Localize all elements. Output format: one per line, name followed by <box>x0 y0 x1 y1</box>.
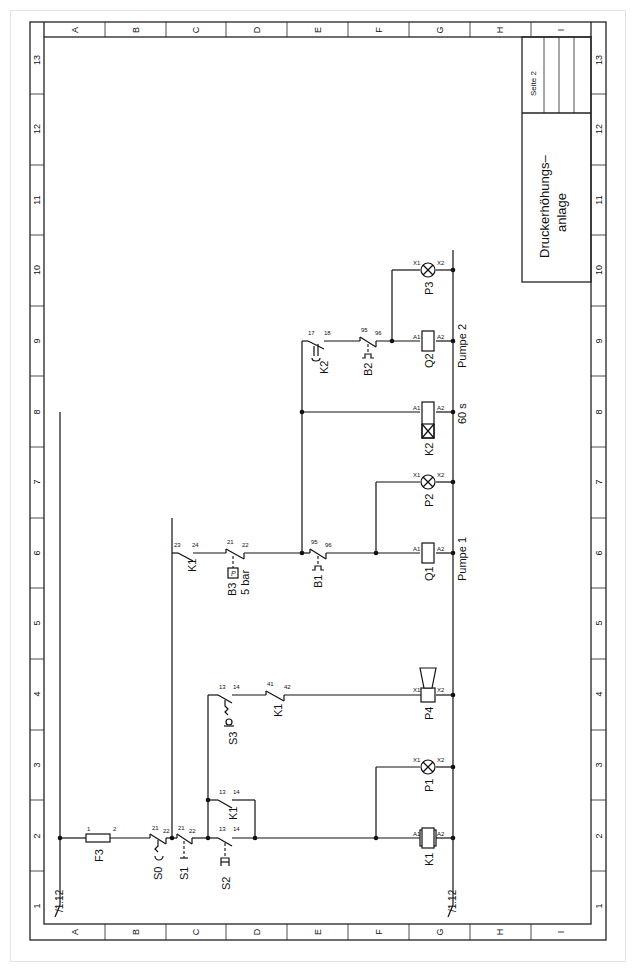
svg-text:23: 23 <box>174 542 181 548</box>
caption-60s: 60 s <box>456 403 468 424</box>
contact-k2-timer: 17 18 K2 <box>308 330 331 374</box>
switch-s1: 21 22 S1 <box>177 825 196 880</box>
svg-text:22: 22 <box>242 542 249 548</box>
col-label-7-left: 7 <box>32 479 42 484</box>
switch-s0-stop: 21 22 S0 <box>150 825 170 880</box>
col-label-4-right: 4 <box>594 691 604 696</box>
rail-ref-right: /1.12 <box>447 889 458 912</box>
label-k2-coil: K2 <box>423 443 435 456</box>
col-label-6-left: 6 <box>32 550 42 555</box>
svg-text:17: 17 <box>308 330 315 336</box>
drawing-title-line2: anlage <box>554 193 569 232</box>
pressure-sensor-glyph: P <box>231 570 236 577</box>
row-label-a-top: A <box>70 27 80 33</box>
label-k2-timer: K2 <box>318 361 330 374</box>
svg-text:24: 24 <box>192 542 199 548</box>
col-label-8-right: 8 <box>594 409 604 414</box>
svg-text:X1: X1 <box>413 260 421 266</box>
row-label-d-top: D <box>252 26 262 33</box>
horn-p4: X1 X2 P4 <box>413 668 445 720</box>
label-b3-setting: 5 bar <box>239 570 251 595</box>
label-p2: P2 <box>423 494 435 507</box>
row-label-i-top: I <box>556 29 566 32</box>
svg-text:A1: A1 <box>413 405 421 411</box>
col-label-13-left: 13 <box>32 55 42 65</box>
svg-text:A2: A2 <box>437 831 445 837</box>
svg-text:95: 95 <box>311 539 318 545</box>
row-label-f-top: F <box>374 27 384 33</box>
col-label-1-right: 1 <box>594 903 604 908</box>
junction-dots <box>58 268 456 841</box>
caption-pumpe-2: Pumpe 2 <box>456 324 468 368</box>
row-label-e-top: E <box>313 27 323 33</box>
label-k1-no: K1 <box>186 559 198 572</box>
svg-text:A2: A2 <box>437 546 445 552</box>
col-label-1-left: 1 <box>32 903 42 908</box>
contact-k1-no: 23 24 K1 <box>174 542 199 572</box>
svg-text:21: 21 <box>227 539 234 545</box>
col-label-6-right: 6 <box>594 550 604 555</box>
contactor-q1: A1 A2 Q1 Pumpe 1 <box>413 537 468 581</box>
svg-text:X2: X2 <box>437 472 445 478</box>
wiring <box>60 270 453 838</box>
title-block: Seite 2 Druckerhöhungs– anlage <box>522 37 591 282</box>
svg-text:X2: X2 <box>437 260 445 266</box>
label-s2: S2 <box>220 877 232 890</box>
schematic-canvas: A B C D E F G H I A B C D E F G H I 1 2 … <box>0 0 634 970</box>
svg-text:18: 18 <box>324 330 331 336</box>
label-b2: B2 <box>362 363 374 376</box>
col-label-3-left: 3 <box>32 762 42 767</box>
svg-text:X1: X1 <box>413 757 421 763</box>
col-label-3-right: 3 <box>594 762 604 767</box>
svg-text:22: 22 <box>189 828 196 834</box>
col-label-5-left: 5 <box>32 620 42 625</box>
label-s0: S0 <box>152 867 164 880</box>
label-k1-hold: K1 <box>227 807 239 820</box>
contact-b2: 95 96 B2 <box>360 327 382 376</box>
switch-s3-float: 13 14 S3 <box>218 684 240 745</box>
svg-text:14: 14 <box>233 826 240 832</box>
col-label-4-left: 4 <box>32 691 42 696</box>
col-label-10-left: 10 <box>32 265 42 275</box>
svg-text:95: 95 <box>361 327 368 333</box>
contact-k1-hold: 13 14 K1 <box>218 789 240 820</box>
svg-text:96: 96 <box>375 330 382 336</box>
svg-text:41: 41 <box>267 681 274 687</box>
col-label-8-left: 8 <box>32 409 42 414</box>
contact-b1: 95 96 B1 <box>310 539 332 588</box>
svg-text:14: 14 <box>233 684 240 690</box>
svg-text:1: 1 <box>87 826 91 832</box>
timer-relay-k2: A1 A2 K2 60 s <box>413 402 468 456</box>
row-label-g-bottom: G <box>435 928 445 935</box>
col-label-10-right: 10 <box>594 265 604 275</box>
label-q1: Q1 <box>423 566 435 581</box>
coil-k1: A1 A2 K1 <box>413 828 445 866</box>
row-label-d-bottom: D <box>252 928 262 935</box>
svg-text:96: 96 <box>325 542 332 548</box>
col-label-12-left: 12 <box>32 124 42 134</box>
row-label-a-bottom: A <box>70 929 80 935</box>
svg-text:A1: A1 <box>413 546 421 552</box>
col-label-12-right: 12 <box>594 124 604 134</box>
row-label-i-bottom: I <box>556 931 566 934</box>
row-label-g-top: G <box>435 26 445 33</box>
col-label-2-left: 2 <box>32 833 42 838</box>
lamp-p1: X1 X2 P1 <box>413 757 445 792</box>
col-label-11-right: 11 <box>594 195 604 204</box>
switch-b3-pressure: P 21 22 B3 5 bar <box>226 539 251 596</box>
label-s1: S1 <box>178 867 190 880</box>
label-s3: S3 <box>227 732 239 745</box>
drawing-frame: A B C D E F G H I A B C D E F G H I 1 2 … <box>30 22 606 940</box>
col-label-5-right: 5 <box>594 620 604 625</box>
svg-text:X2: X2 <box>437 757 445 763</box>
row-label-h-top: H <box>495 27 505 34</box>
svg-text:2: 2 <box>113 826 117 832</box>
contactor-q2: A1 A2 Q2 Pumpe 2 <box>413 324 468 368</box>
row-label-b-top: B <box>131 27 141 33</box>
drawing-title-line1: Druckerhöhungs– <box>537 155 552 258</box>
label-p3: P3 <box>423 282 435 295</box>
svg-text:22: 22 <box>163 828 170 834</box>
label-k1-nc: K1 <box>272 704 284 717</box>
label-f3: F3 <box>93 849 105 862</box>
svg-text:42: 42 <box>284 684 291 690</box>
